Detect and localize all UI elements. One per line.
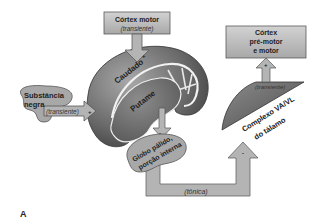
tonic-label: (tônica): [184, 188, 207, 196]
substantia-nigra-arrow-label: (transiente): [46, 108, 79, 116]
motor-cortex-sign: +: [142, 53, 146, 59]
premotor-line2: pré-motor: [249, 38, 282, 46]
thalamus-node: (transiente) Complexo VA/VL do tálamo: [222, 82, 304, 142]
motor-cortex-title: Córtex motor: [115, 16, 159, 23]
premotor-line3: e motor: [253, 47, 279, 54]
tonic-sign: -: [242, 150, 244, 156]
substantia-nigra-line1: Substância: [24, 91, 65, 100]
thalamus-to-premotor-arrow: +: [256, 58, 276, 82]
thalamus-premotor-sign: +: [264, 62, 268, 68]
basal-ganglia-diagram: (tônica) - Caudado Putame Córtex motor (…: [0, 0, 328, 224]
substantia-nigra-node: Substância negra (transiente) +: [20, 85, 96, 122]
substantia-nigra-line2: negra: [24, 100, 45, 109]
premotor-cortex-node: Córtex pré-motor e motor: [226, 26, 306, 58]
striatum: Caudado Putame: [87, 46, 208, 147]
substantia-nigra-sign: +: [88, 109, 92, 115]
premotor-line1: Córtex: [255, 29, 277, 36]
panel-label: A: [20, 209, 27, 219]
motor-cortex-subtitle: (transiente): [121, 25, 154, 33]
thalamus-arrow-label: (transiente): [255, 84, 285, 90]
